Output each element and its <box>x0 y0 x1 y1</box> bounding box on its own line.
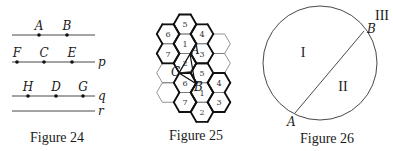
cluster-outline <box>208 44 214 54</box>
circle <box>263 6 377 120</box>
region-label-I: I <box>301 45 306 60</box>
point-label-H: H <box>22 80 34 94</box>
cluster-outline <box>208 63 214 73</box>
hex-number-7: 7 <box>182 98 187 107</box>
hex-number-5: 5 <box>182 20 187 29</box>
cluster-outline <box>157 34 163 44</box>
figure-25-caption: Figure 25 <box>169 128 223 143</box>
cluster-outline <box>225 102 231 112</box>
region-label-III: III <box>375 8 389 23</box>
cluster-outline <box>208 24 214 34</box>
hex-number-6: 6 <box>165 30 170 39</box>
cluster-outline <box>174 102 180 112</box>
segment-ac <box>179 54 190 73</box>
hex-number-5: 5 <box>199 69 204 78</box>
cluster-outline <box>157 24 163 34</box>
cluster-outline <box>174 24 180 34</box>
figure-26-caption: Figure 26 <box>300 131 354 146</box>
cluster-outline <box>225 83 231 93</box>
figure-26-circle: ABIIIIII <box>263 6 389 129</box>
cluster-outline <box>191 15 197 25</box>
point-label-E: E <box>67 46 77 60</box>
cluster-outline <box>174 93 180 103</box>
cluster-outline <box>157 44 163 54</box>
hex-number-7: 7 <box>165 50 170 59</box>
hex-number-1: 1 <box>182 40 187 49</box>
hex-number-3: 3 <box>216 98 221 107</box>
cluster-outline <box>174 83 180 93</box>
line-label-q: q <box>98 89 106 103</box>
cluster-outline <box>191 24 197 34</box>
cluster-outline <box>208 83 214 93</box>
chord-label-B: B <box>366 22 376 36</box>
hex-number-4: 4 <box>199 30 204 39</box>
cluster-outline <box>225 93 231 103</box>
cluster-outline <box>208 102 214 112</box>
point-H <box>26 94 30 98</box>
cluster-outline <box>174 54 180 64</box>
point-label-A: A <box>34 19 44 33</box>
cluster-outline <box>208 73 214 83</box>
cluster-outline <box>208 54 214 64</box>
point-B <box>65 33 69 37</box>
cluster-outline <box>157 54 163 64</box>
vertex-label-A: A <box>190 43 200 57</box>
cluster-outline <box>174 15 180 25</box>
point-D <box>54 94 58 98</box>
hex-number-3: 3 <box>199 50 204 59</box>
figures-canvas: ABpFCEqHDGr Figure 24 67512674351243ACB … <box>0 0 393 151</box>
cluster-outline <box>208 112 214 122</box>
point-label-D: D <box>50 80 61 94</box>
point-F <box>15 60 19 64</box>
point-C <box>42 60 46 64</box>
point-G <box>81 94 85 98</box>
line-label-p: p <box>98 55 106 69</box>
point-label-C: C <box>39 46 48 60</box>
hex-number-4: 4 <box>216 79 221 88</box>
vertex-label-C: C <box>171 65 180 79</box>
vertex-label-B: B <box>193 80 203 94</box>
region-label-II: II <box>338 79 348 94</box>
hex-number-6: 6 <box>182 79 187 88</box>
cluster-outline <box>174 44 180 54</box>
point-E <box>70 60 74 64</box>
cluster-outline <box>191 102 197 112</box>
cluster-outline <box>191 112 197 122</box>
point-label-F: F <box>12 46 22 60</box>
chord-ab <box>295 31 364 113</box>
line-label-r: r <box>98 104 105 118</box>
point-label-G: G <box>78 80 88 94</box>
cluster-outline <box>208 93 214 103</box>
cluster-outline <box>208 34 214 44</box>
cluster-outline <box>174 34 180 44</box>
hex-number-2: 2 <box>199 108 204 117</box>
point-label-B: B <box>62 19 72 33</box>
point-A <box>37 33 41 37</box>
figure-24: ABpFCEqHDGr <box>12 19 106 118</box>
cluster-outline <box>225 73 231 83</box>
figure-24-caption: Figure 24 <box>30 130 84 145</box>
figure-25-hex-grid: 67512674351243ACB <box>157 15 231 122</box>
chord-label-A: A <box>286 115 296 129</box>
